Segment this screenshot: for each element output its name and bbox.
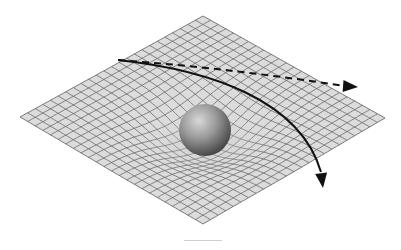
spacetime-diagram	[0, 0, 401, 250]
mass-sphere	[179, 104, 231, 156]
curved-path-arrowhead-icon	[315, 172, 327, 188]
diagram-canvas	[0, 0, 401, 250]
caption-divider	[184, 240, 222, 241]
straight-path-arrowhead-icon	[343, 80, 358, 92]
